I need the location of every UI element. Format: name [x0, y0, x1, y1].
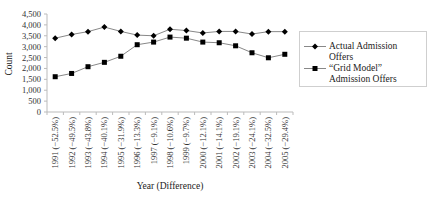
x-tick-label: 1999 (−9.7%): [181, 117, 191, 164]
series-grid-model-admission-offers: [53, 35, 288, 80]
data-point-diamond: [134, 32, 140, 38]
data-point-diamond: [249, 31, 255, 37]
data-point-square: [250, 50, 255, 55]
data-point-square: [135, 42, 140, 47]
data-point-diamond: [118, 28, 124, 34]
data-point-diamond: [167, 26, 173, 32]
data-point-diamond: [183, 28, 189, 34]
y-tick-label: 500: [28, 96, 41, 106]
data-point-square: [184, 36, 189, 41]
data-point-diamond: [151, 33, 157, 39]
data-point-diamond: [200, 30, 206, 36]
x-axis: 1991 (−52.5%)1992 (−49.5%)1993 (−43.8%)1…: [47, 112, 293, 169]
y-tick-label: 4,000: [22, 20, 41, 30]
x-tick-label: 1994 (−40.1%): [99, 117, 109, 169]
x-tick-label: 2003 (−24.1%): [247, 117, 257, 169]
x-tick-label: 2002 (−19.1%): [231, 117, 241, 169]
data-point-square: [168, 35, 173, 40]
series-layer: [52, 24, 288, 79]
x-tick-label: 2005 (−29.4%): [280, 117, 290, 169]
data-point-diamond: [85, 29, 91, 35]
series-line: [55, 37, 285, 77]
x-tick-label: 1998 (−10.6%): [165, 117, 175, 169]
legend-item-grid-model: “Grid Model” Admission Offers: [304, 63, 421, 85]
data-point-square: [69, 71, 74, 76]
data-point-square: [118, 54, 123, 59]
data-point-diamond: [52, 35, 58, 41]
x-tick-label: 2000 (−12.1%): [198, 117, 208, 169]
data-point-diamond: [69, 31, 75, 37]
data-point-square: [217, 40, 222, 45]
x-tick-label: 1993 (−43.8%): [83, 117, 93, 169]
data-point-square: [282, 52, 287, 57]
y-tick-label: 1,500: [22, 74, 41, 84]
line-chart: 05001,0001,5002,0002,5003,0003,5004,0004…: [0, 0, 430, 198]
x-tick-label: 2001 (−14.1%): [214, 117, 224, 169]
y-tick-label: 3,000: [22, 42, 41, 52]
data-point-diamond: [101, 24, 107, 30]
y-tick-label: 2,000: [22, 63, 41, 73]
legend: Actual Admission Offers “Grid Model” Adm…: [299, 31, 427, 87]
x-tick-label: 2004 (−32.5%): [263, 117, 273, 169]
x-tick-label: 1997 (−9.1%): [149, 117, 159, 164]
y-tick-label: 3,500: [22, 31, 41, 41]
data-point-diamond: [282, 29, 288, 35]
legend-label-grid-model: “Grid Model” Admission Offers: [329, 63, 421, 85]
y-axis: 05001,0001,5002,0002,5003,0003,5004,0004…: [22, 9, 47, 117]
data-point-square: [266, 55, 271, 60]
x-tick-label: 1996 (−13.3%): [132, 117, 142, 169]
y-tick-label: 1,000: [22, 85, 41, 95]
data-point-square: [151, 40, 156, 45]
y-axis-title: Count: [4, 52, 14, 76]
x-tick-label: 1995 (−31.9%): [116, 117, 126, 169]
square-marker-icon: [304, 64, 326, 73]
y-tick-label: 4,500: [22, 9, 41, 19]
x-axis-title: Year (Difference): [137, 181, 204, 192]
diamond-marker-icon: [304, 42, 326, 51]
data-point-diamond: [265, 29, 271, 35]
data-point-square: [233, 43, 238, 48]
data-point-diamond: [233, 28, 239, 34]
data-point-square: [102, 60, 107, 65]
x-tick-label: 1992 (−49.5%): [67, 117, 77, 169]
y-tick-label: 0: [37, 107, 41, 117]
data-point-square: [53, 74, 58, 79]
y-tick-label: 2,500: [22, 53, 41, 63]
data-point-diamond: [216, 28, 222, 34]
legend-item-actual: Actual Admission Offers: [304, 41, 421, 63]
data-point-square: [200, 40, 205, 45]
data-point-square: [86, 64, 91, 69]
legend-label-actual: Actual Admission Offers: [329, 41, 421, 63]
x-tick-label: 1991 (−52.5%): [50, 117, 60, 169]
